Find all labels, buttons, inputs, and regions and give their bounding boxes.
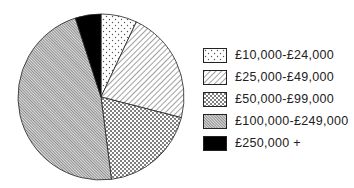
dense-dots-swatch-icon <box>203 92 227 107</box>
pie-chart <box>0 0 200 188</box>
legend: £10,000-£24,000 £25,000-£49,000 £50,000-… <box>203 44 349 154</box>
legend-label: £25,000-£49,000 <box>235 70 334 84</box>
legend-label: £10,000-£24,000 <box>235 48 334 62</box>
legend-item: £100,000-£249,000 <box>203 110 349 132</box>
legend-label: £100,000-£249,000 <box>235 114 349 128</box>
legend-item: £10,000-£24,000 <box>203 44 349 66</box>
legend-item: £25,000-£49,000 <box>203 66 349 88</box>
diagonal-lines-swatch-icon <box>203 70 227 85</box>
sparse-dots-swatch-icon <box>203 48 227 63</box>
legend-item: £50,000-£99,000 <box>203 88 349 110</box>
fine-hatch-swatch-icon <box>203 114 227 129</box>
solid-black-swatch-icon <box>203 136 227 151</box>
legend-item: £250,000 + <box>203 132 349 154</box>
legend-label: £50,000-£99,000 <box>235 92 334 106</box>
legend-label: £250,000 + <box>235 136 301 150</box>
